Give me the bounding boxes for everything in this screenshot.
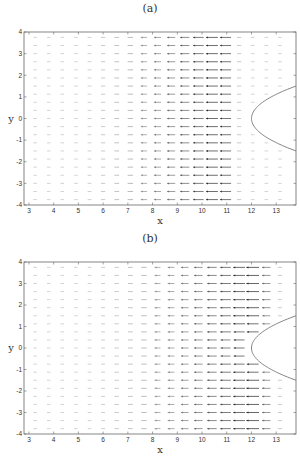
arrow-head (220, 420, 222, 422)
arrow-head (206, 118, 208, 120)
arrow-head (141, 45, 143, 47)
arrow-head (167, 85, 169, 87)
arrow-head (262, 283, 264, 285)
arrow-head (168, 323, 170, 325)
arrow-head (220, 315, 222, 317)
arrow-head (168, 371, 170, 373)
quiver-plot-a: 34567891011121343210-1-2-3-4xy (0, 0, 300, 228)
arrow-head (155, 371, 157, 373)
arrow-head (234, 331, 236, 333)
arrow-head (181, 266, 183, 268)
arrow-head (220, 379, 222, 381)
arrow-head (246, 428, 248, 430)
arrow-head (220, 61, 222, 63)
arrow-head (141, 158, 143, 160)
arrow-head (154, 190, 156, 192)
arrow-head (234, 347, 236, 349)
arrow-head (167, 174, 169, 176)
arrow-head (154, 182, 156, 184)
arrow-head (220, 199, 222, 201)
arrow-head (181, 379, 183, 381)
arrow-head (193, 174, 195, 176)
arrow-head (207, 371, 209, 373)
arrow-head (154, 101, 156, 103)
arrow-head (220, 371, 222, 373)
arrow-head (180, 93, 182, 95)
x-tick-label: 8 (151, 436, 155, 443)
arrow-head (220, 174, 222, 176)
y-axis-label: y (7, 113, 14, 124)
arrow-head (168, 307, 170, 309)
arrow-head (193, 199, 195, 201)
arrow-head (181, 315, 183, 317)
arrow-head (141, 150, 143, 152)
y-tick-label: -2 (16, 158, 22, 165)
arrow-head (154, 150, 156, 152)
arrow-head (246, 266, 248, 268)
boundary-curve (251, 316, 296, 381)
arrow-head (167, 36, 169, 38)
arrow-head (181, 339, 183, 341)
y-tick-label: 1 (18, 93, 22, 100)
arrow-head (220, 77, 222, 79)
y-tick-label: -3 (16, 409, 22, 416)
arrow-head (155, 347, 157, 349)
arrow-head (154, 142, 156, 144)
arrow-head (141, 36, 143, 38)
arrow-head (194, 307, 196, 309)
y-tick-label: 0 (18, 115, 22, 122)
arrow-head (193, 150, 195, 152)
arrow-head (168, 420, 170, 422)
arrow-head (180, 53, 182, 55)
arrow-head (262, 323, 264, 325)
arrow-head (181, 363, 183, 365)
arrow-head (233, 283, 235, 285)
y-tick-label: 3 (18, 280, 22, 287)
arrow-head (141, 109, 143, 111)
arrow-head (168, 379, 170, 381)
arrow-head (206, 77, 208, 79)
arrow-head (194, 403, 196, 405)
arrow-head (193, 77, 195, 79)
arrow-head (181, 323, 183, 325)
y-tick-label: 0 (18, 344, 22, 351)
x-tick-label: 13 (273, 207, 281, 214)
arrow-head (220, 142, 222, 144)
y-tick-label: -3 (16, 180, 22, 187)
arrow-head (154, 85, 156, 87)
arrow-head (246, 420, 248, 422)
arrow-head (141, 126, 143, 128)
arrow-head (246, 395, 248, 397)
arrow-head (220, 299, 222, 301)
arrow-head (141, 69, 143, 71)
arrow-head (141, 182, 143, 184)
arrow-head (220, 387, 222, 389)
arrow-head (141, 85, 143, 87)
arrow-head (262, 412, 264, 414)
arrow-head (220, 36, 222, 38)
arrow-head (233, 428, 235, 430)
arrow-head (154, 109, 156, 111)
arrow-head (154, 134, 156, 136)
arrow-head (180, 199, 182, 201)
arrow-head (180, 150, 182, 152)
arrow-head (168, 299, 170, 301)
arrow-head (207, 412, 209, 414)
arrow-head (167, 182, 169, 184)
arrow-head (207, 331, 209, 333)
arrow-head (194, 274, 196, 276)
arrow-head (168, 412, 170, 414)
y-tick-label: 4 (18, 28, 22, 35)
arrow-head (181, 420, 183, 422)
arrow-head (193, 118, 195, 120)
arrow-head (154, 45, 156, 47)
arrow-head (194, 371, 196, 373)
arrow-head (180, 182, 182, 184)
arrow-head (194, 363, 196, 365)
arrow-head (193, 53, 195, 55)
arrow-head (220, 150, 222, 152)
arrow-head (233, 315, 235, 317)
arrow-head (167, 45, 169, 47)
arrow-head (220, 182, 222, 184)
arrow-head (206, 126, 208, 128)
